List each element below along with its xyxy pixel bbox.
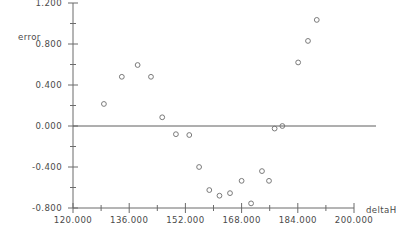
y-axis-title: error [18,32,41,42]
data-point [149,74,154,79]
data-point [102,102,107,107]
data-point [296,60,301,65]
x-axis-title: deltaH [366,205,396,215]
data-point [239,178,244,183]
y-axis-tick-label: -0.800 [32,203,62,213]
y-axis-tick-label: -0.400 [32,162,62,172]
x-axis-tick-label: 152.000 [166,215,204,225]
y-axis-tick-label: 0.000 [35,121,62,131]
data-point [217,193,222,198]
data-point [306,39,311,44]
scatter-plot: 1.2000.8000.4000.000-0.400-0.800120.0001… [0,0,396,227]
y-axis-tick-label: 0.400 [35,80,62,90]
data-point [267,178,272,183]
data-point [187,133,192,138]
data-point [314,18,319,23]
data-point [197,165,202,170]
x-axis-tick-label: 200.000 [335,215,373,225]
data-point [160,115,165,120]
x-axis-tick-label: 168.000 [222,215,260,225]
data-point [119,74,124,79]
data-point [174,132,179,137]
chart-canvas: 1.2000.8000.4000.000-0.400-0.800120.0001… [0,0,396,227]
data-point [135,63,140,68]
data-point [260,169,265,174]
x-axis-tick-label: 184.000 [279,215,317,225]
data-point [272,126,277,131]
data-point [228,191,233,196]
data-point [207,188,212,193]
x-axis-tick-label: 136.000 [110,215,148,225]
x-axis-tick-label: 120.000 [54,215,92,225]
y-axis-tick-label: 1.200 [35,0,62,8]
data-point [249,201,254,206]
